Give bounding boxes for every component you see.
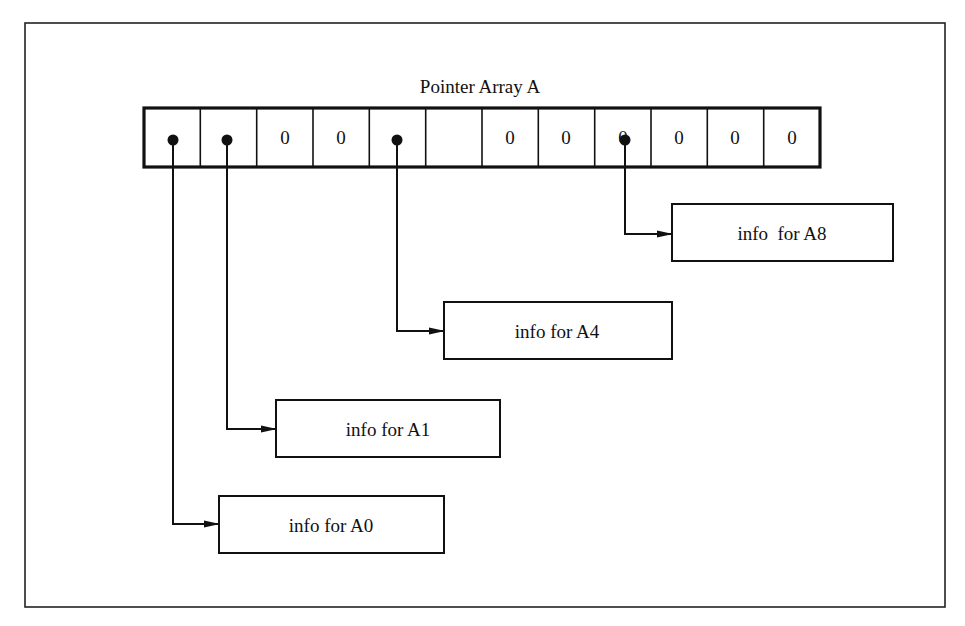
array-cell-10-value: 0	[730, 127, 740, 148]
array-cell-6-value: 0	[561, 127, 571, 148]
info-box-a4: info for A4	[444, 302, 672, 359]
pointer-arrow-a8	[625, 140, 672, 234]
info-box-a8: info for A8	[672, 204, 893, 261]
array-cell-2-value: 0	[280, 127, 290, 148]
pointer-array: 0 0 0 0 0 0 0 0	[144, 108, 820, 167]
array-title: Pointer Array A	[420, 76, 541, 97]
info-box-a8-label: info for A8	[737, 223, 826, 244]
array-cell-9-value: 0	[674, 127, 684, 148]
info-box-a4-label: info for A4	[515, 321, 600, 342]
pointer-arrow-a1	[227, 140, 276, 429]
array-cell-11-value: 0	[787, 127, 797, 148]
info-box-a1: info for A1	[276, 400, 500, 457]
info-box-a1-label: info for A1	[346, 419, 430, 440]
array-cell-3-value: 0	[336, 127, 346, 148]
array-cell-5-value: 0	[505, 127, 515, 148]
pointer-arrow-a4	[397, 140, 444, 331]
info-box-a0-label: info for A0	[289, 515, 373, 536]
pointer-array-diagram: Pointer Array A 0 0 0 0 0 0 0 0 in	[0, 0, 965, 626]
info-box-a0: info for A0	[219, 496, 444, 553]
pointer-arrow-a0	[173, 140, 219, 524]
